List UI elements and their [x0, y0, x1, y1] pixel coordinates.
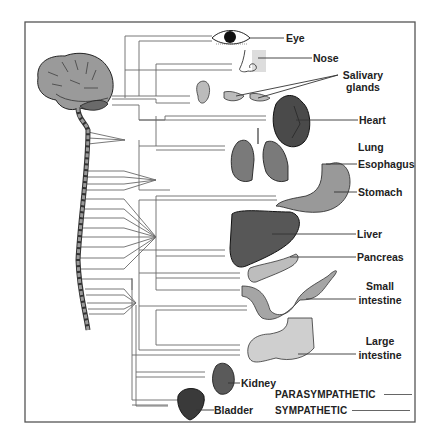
label-small-intestine: Small intestine [355, 280, 405, 306]
label-kidney: Kidney [241, 377, 276, 389]
bladder [178, 389, 205, 421]
eye [212, 31, 250, 45]
label-large-intestine: Large intestine [355, 335, 405, 361]
label-lung: Lung [358, 141, 384, 153]
label-salivary-line1: Salivary [338, 69, 388, 81]
large-intestine [248, 318, 314, 362]
label-liver: Liver [357, 228, 382, 240]
salivary-glands [197, 81, 270, 103]
label-large-intestine-line1: Large [355, 335, 405, 347]
kidney [213, 363, 235, 394]
legend-parasympathetic-label: PARASYMPATHETIC [275, 389, 376, 400]
label-heart: Heart [359, 114, 386, 126]
brain [38, 53, 113, 110]
label-eye: Eye [286, 32, 305, 44]
label-pancreas: Pancreas [357, 251, 404, 263]
label-small-intestine-line2: intestine [355, 294, 405, 306]
legend-sympathetic-line [352, 410, 410, 411]
label-small-intestine-line1: Small [355, 280, 405, 292]
nose [240, 50, 266, 72]
ans-diagram [0, 0, 440, 447]
legend-sympathetic-label: SYMPATHETIC [275, 405, 347, 416]
spinal-cord [78, 108, 88, 330]
label-esophagus: Esophagus [358, 158, 415, 170]
label-large-intestine-line2: intestine [355, 349, 405, 361]
label-stomach: Stomach [358, 186, 402, 198]
label-salivary-glands: Salivary glands [338, 69, 388, 93]
label-salivary-line2: glands [338, 81, 388, 93]
legend-sympathetic: SYMPATHETIC [275, 405, 410, 416]
label-nose: Nose [313, 52, 339, 64]
label-bladder: Bladder [214, 404, 253, 416]
legend-parasympathetic: PARASYMPATHETIC [275, 389, 412, 400]
legend-parasympathetic-line [384, 394, 412, 395]
heart [273, 96, 310, 147]
